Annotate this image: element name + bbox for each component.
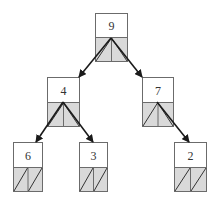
- node-value: 4: [61, 84, 67, 98]
- binary-tree-diagram: 947632: [0, 0, 217, 201]
- tree-node-9: 9: [96, 14, 128, 62]
- node-value: 3: [91, 149, 97, 163]
- node-value: 9: [109, 19, 115, 33]
- tree-node-3: 3: [80, 143, 108, 192]
- tree-node-6: 6: [14, 143, 43, 192]
- node-value: 2: [188, 149, 194, 163]
- node-value: 6: [25, 149, 31, 163]
- node-value: 7: [155, 84, 161, 98]
- tree-node-2: 2: [175, 143, 207, 192]
